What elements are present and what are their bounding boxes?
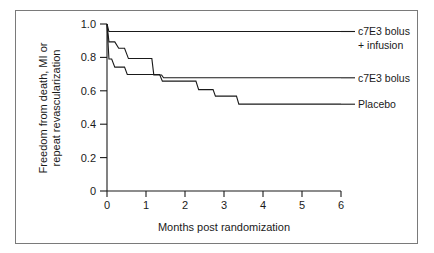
x-axis-title: Months post randomization — [158, 221, 290, 233]
label-placebo: Placebo — [341, 98, 396, 110]
y-tick-group — [100, 24, 107, 191]
curves-group — [107, 24, 341, 104]
curve-label-c7e3-bolus-infusion-line1: c7E3 bolus — [358, 25, 410, 37]
x-axis: 0 1 2 3 4 5 6 Months post randomization — [104, 191, 344, 233]
curve-label-placebo: Placebo — [358, 98, 396, 110]
y-axis-title: Freedom from death, MI or repeat revascu… — [37, 42, 62, 173]
y-tick-label-1: 0.2 — [81, 152, 96, 164]
kaplan-meier-chart: 1.0 0.8 0.6 0.4 0.2 0 Freedom from death… — [0, 0, 434, 253]
x-tick-group — [107, 191, 341, 197]
y-tick-labels: 1.0 0.8 0.6 0.4 0.2 0 — [81, 18, 96, 197]
y-tick-label-4: 0.8 — [81, 51, 96, 63]
curve-labels-group: c7E3 bolus + infusion c7E3 bolus Placebo — [341, 25, 410, 110]
x-tick-label-0: 0 — [104, 199, 110, 211]
curve-label-c7e3-bolus: c7E3 bolus — [358, 72, 410, 84]
x-tick-label-2: 2 — [182, 199, 188, 211]
y-axis-title-line1: Freedom from death, MI or — [37, 42, 49, 173]
figure-container: 1.0 0.8 0.6 0.4 0.2 0 Freedom from death… — [0, 0, 434, 253]
y-axis: 1.0 0.8 0.6 0.4 0.2 0 Freedom from death… — [37, 18, 107, 197]
y-tick-label-2: 0.4 — [81, 118, 96, 130]
x-tick-label-4: 4 — [260, 199, 266, 211]
y-axis-title-line2: repeat revascularization — [50, 50, 62, 167]
curve-c7e3-bolus-infusion — [107, 24, 341, 32]
label-c7e3-bolus: c7E3 bolus — [341, 72, 410, 84]
x-tick-label-1: 1 — [143, 199, 149, 211]
label-c7e3-bolus-infusion: c7E3 bolus + infusion — [341, 25, 410, 51]
x-tick-label-5: 5 — [299, 199, 305, 211]
y-tick-label-3: 0.6 — [81, 85, 96, 97]
x-tick-label-6: 6 — [338, 199, 344, 211]
x-tick-label-3: 3 — [221, 199, 227, 211]
x-tick-labels: 0 1 2 3 4 5 6 — [104, 199, 344, 211]
curve-label-c7e3-bolus-infusion-line2: + infusion — [358, 39, 403, 51]
y-tick-label-5: 1.0 — [81, 18, 96, 30]
curve-placebo — [107, 24, 341, 104]
y-tick-label-0: 0 — [90, 185, 96, 197]
